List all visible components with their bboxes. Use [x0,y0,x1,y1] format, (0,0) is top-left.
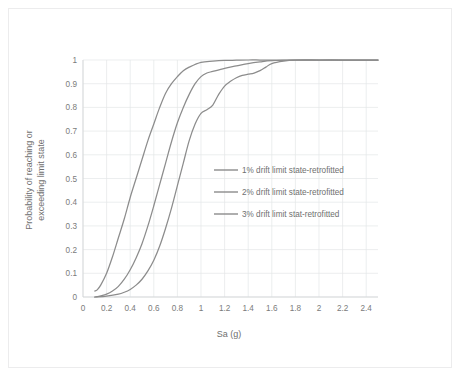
x-tick-label: 2.4 [361,304,373,313]
y-tick-label: 0.7 [66,127,78,136]
x-tick-labels: 00.20.40.60.811.21.41.61.822.22.4 [81,304,373,313]
legend-label-2[interactable]: 2% drift limit state-retrofitted [242,188,344,197]
y-tick-label: 0.5 [66,175,78,184]
y-tick-label: 0.3 [66,222,78,231]
legend-label-1[interactable]: 1% drift limit state-retrofitted [242,166,344,175]
x-tick-label: 1.6 [266,304,278,313]
y-tick-label: 0.8 [66,103,78,112]
x-tick-label: 0.8 [172,304,184,313]
y-tick-label: 0.2 [66,246,78,255]
y-tick-labels: 00.10.20.30.40.50.60.70.80.91 [66,56,78,302]
y-tick-label: 0.9 [66,80,78,89]
y-tick-label: 1 [72,56,77,65]
x-tick-label: 1.8 [290,304,302,313]
y-axis-title-line1: Probability of reaching or [24,130,34,230]
y-tick-label: 0 [72,293,77,302]
gridlines [83,60,378,297]
legend-label-3[interactable]: 3% drift limit stat-retrofitted [242,210,340,219]
y-tick-label: 0.6 [66,151,78,160]
chart-canvas: 00.20.40.60.811.21.41.61.822.22.4 00.10.… [0,0,462,381]
x-tick-label: 0.6 [148,304,160,313]
x-tick-label: 0.4 [125,304,137,313]
x-tick-label: 0 [81,304,86,313]
x-tick-label: 1.4 [243,304,255,313]
x-tick-label: 1 [199,304,204,313]
fragility-curve-chart: 00.20.40.60.811.21.41.61.822.22.4 00.10.… [0,0,462,381]
y-tick-label: 0.1 [66,269,78,278]
y-axis-title-line2: exceeding limit state [36,139,46,221]
x-tick-label: 1.2 [219,304,231,313]
chart-legend[interactable]: 1% drift limit state-retrofitted2% drift… [214,166,344,219]
x-tick-label: 2.2 [337,304,349,313]
x-tick-label: 0.2 [101,304,113,313]
x-tick-label: 2 [317,304,322,313]
x-axis-title: Sa (g) [217,329,242,339]
y-tick-label: 0.4 [66,198,78,207]
